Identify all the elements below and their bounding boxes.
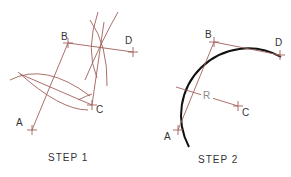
step2-diagram bbox=[173, 37, 285, 147]
step2-label-c: C bbox=[242, 107, 249, 118]
diagram-canvas: A B C D STEP 1 R A B C D STEP 2 bbox=[0, 0, 291, 177]
step1-label-c: C bbox=[96, 104, 103, 115]
step1-caption: STEP 1 bbox=[48, 152, 88, 163]
arc-ab-upper bbox=[10, 74, 90, 96]
step2-label-b: B bbox=[205, 29, 212, 40]
step1-label-d: D bbox=[125, 35, 132, 46]
step1-label-a: A bbox=[16, 117, 23, 128]
arc-bd-extra bbox=[90, 20, 107, 86]
circular-arc bbox=[181, 48, 281, 147]
cross-d bbox=[275, 50, 285, 60]
step2-label-a: A bbox=[164, 131, 171, 142]
step2-label-d: D bbox=[275, 37, 282, 48]
step1-diagram bbox=[10, 12, 138, 135]
cross-d bbox=[128, 47, 138, 57]
radius-label: R bbox=[203, 90, 210, 101]
step2-caption: STEP 2 bbox=[198, 154, 238, 165]
cross-a bbox=[27, 125, 37, 135]
chord-ab bbox=[178, 42, 214, 130]
step1-label-b: B bbox=[61, 31, 68, 42]
arc-ab-extra bbox=[78, 94, 92, 100]
